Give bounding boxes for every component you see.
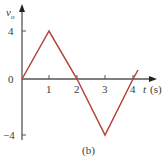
caption: (b) bbox=[82, 144, 95, 157]
ytick-label-neg4: −4 bbox=[3, 129, 15, 141]
xlabel-t: t bbox=[143, 83, 147, 95]
waveform-line bbox=[22, 31, 138, 135]
xtick-label-2: 2 bbox=[74, 83, 80, 95]
x-axis-arrow-icon bbox=[149, 76, 157, 82]
y-axis-arrow-icon bbox=[19, 4, 25, 12]
ytick-label-0: 0 bbox=[8, 73, 14, 85]
xlabel-unit: (s) bbox=[150, 83, 162, 96]
xtick-label-3: 3 bbox=[102, 83, 108, 95]
chart: vo 4 0 −4 1 2 3 4 t (s) (b) bbox=[0, 0, 168, 159]
ytick-label-4: 4 bbox=[8, 25, 14, 37]
xtick-label-1: 1 bbox=[46, 83, 52, 95]
ylabel: vo bbox=[6, 6, 15, 21]
xtick-label-4: 4 bbox=[130, 83, 136, 95]
